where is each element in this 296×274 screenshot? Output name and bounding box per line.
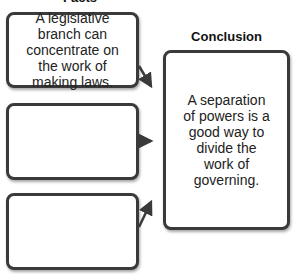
arrow-icon: [139, 202, 151, 227]
connector-arrows: [0, 0, 296, 274]
arrow-icon: [139, 66, 151, 86]
